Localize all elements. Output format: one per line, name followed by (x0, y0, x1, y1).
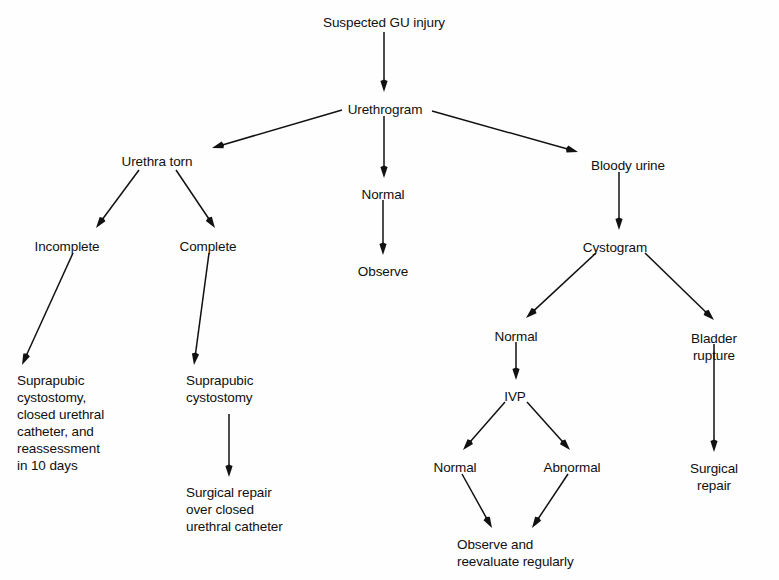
edge-urethrogram-to-urethra_torn (212, 110, 342, 148)
edge-line (101, 170, 139, 221)
arrowhead-icon (710, 440, 717, 453)
arrowhead-icon (566, 146, 578, 153)
edge-bloody_urine-to-cystogram (615, 172, 622, 230)
node-observe_reeval: Observe and reevaluate regularly (457, 536, 574, 570)
node-suspected: Suspected GU injury (323, 14, 445, 31)
node-cystogram: Cystogram (583, 239, 647, 256)
node-complete: Complete (180, 238, 237, 255)
arrowhead-icon (96, 217, 105, 228)
edge-suprapubic_mid-to-surgical_rep_mid (225, 414, 232, 477)
arrowhead-icon (212, 141, 224, 148)
arrowhead-icon (484, 517, 492, 528)
edge-line (537, 474, 568, 521)
edge-line (176, 170, 210, 221)
arrowhead-icon (463, 439, 473, 450)
edge-normal_ivp-to-observe_reeval (462, 474, 492, 528)
node-suprapubic_left: Suprapubic cystostomy, closed urethral c… (17, 372, 104, 474)
node-normal_ivp: Normal (434, 459, 477, 476)
node-abnormal_ivp: Abnormal (544, 459, 601, 476)
arrowhead-icon (225, 465, 232, 478)
edge-ivp-to-normal_ivp (463, 402, 505, 450)
edge-cystogram-to-bladder_rupture (645, 253, 714, 320)
edge-line (221, 110, 342, 145)
arrowhead-icon (615, 218, 622, 231)
node-normal_ureth: Normal (362, 186, 405, 203)
arrowhead-icon (560, 439, 570, 450)
node-bladder_rupture: Bladder rupture (682, 330, 747, 364)
edge-normal_cysto-to-ivp (512, 342, 519, 380)
edge-urethrogram-to-bloody_urine (432, 111, 578, 152)
edge-line (527, 402, 564, 443)
node-normal_cysto: Normal (495, 328, 538, 345)
arrowhead-icon (380, 166, 387, 179)
edge-complete-to-suprapubic_mid (192, 253, 209, 365)
edge-line (195, 253, 209, 356)
edge-ivp-to-abnormal_ivp (527, 402, 570, 450)
edge-suspected-to-urethrogram (380, 32, 387, 92)
node-suprapubic_mid: Suprapubic cystostomy (186, 372, 253, 406)
node-bloody_urine: Bloody urine (591, 157, 665, 174)
arrowhead-icon (704, 310, 714, 320)
edge-line (432, 111, 569, 150)
node-observe_mid: Observe (358, 263, 408, 280)
arrowhead-icon (526, 308, 537, 318)
node-ivp: IVP (504, 388, 525, 405)
node-urethrogram: Urethrogram (348, 101, 423, 118)
arrowhead-icon (379, 243, 386, 256)
arrowhead-icon (512, 368, 519, 381)
edge-layer (0, 0, 779, 580)
edge-line (26, 253, 73, 357)
node-incomplete: Incomplete (34, 238, 99, 255)
arrowhead-icon (22, 353, 30, 365)
arrowhead-icon (206, 217, 215, 228)
arrowhead-icon (380, 80, 387, 93)
edge-line (645, 253, 708, 314)
edge-urethra_torn-to-incomplete (96, 170, 139, 228)
edge-incomplete-to-suprapubic_left (22, 253, 73, 365)
edge-line (533, 253, 596, 312)
edge-line (469, 402, 505, 443)
edge-urethra_torn-to-complete (176, 170, 215, 228)
edge-abnormal_ivp-to-observe_reeval (532, 474, 568, 528)
edge-line (462, 474, 488, 520)
node-surgical_rep_mid: Surgical repair over closed urethral cat… (186, 484, 283, 535)
arrowhead-icon (192, 353, 199, 365)
edge-cystogram-to-normal_cysto (526, 253, 596, 318)
edge-normal_ureth-to-observe_mid (379, 200, 386, 255)
node-surgical_rep_rt: Surgical repair (682, 460, 747, 494)
flowchart-canvas: Suspected GU injuryUrethrogramUrethra to… (0, 0, 779, 580)
arrowhead-icon (532, 517, 541, 528)
edge-urethrogram-to-normal_ureth (380, 116, 387, 178)
node-urethra_torn: Urethra torn (122, 153, 193, 170)
